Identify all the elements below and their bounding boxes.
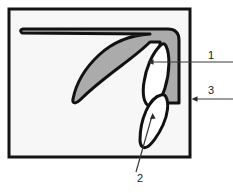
figure-container: 1 2 3 bbox=[0, 0, 233, 193]
callout-label-2: 2 bbox=[137, 172, 143, 184]
callout-label-3: 3 bbox=[208, 84, 214, 96]
figure-drawing: 1 2 3 bbox=[0, 0, 233, 193]
callout-label-1: 1 bbox=[208, 49, 214, 61]
